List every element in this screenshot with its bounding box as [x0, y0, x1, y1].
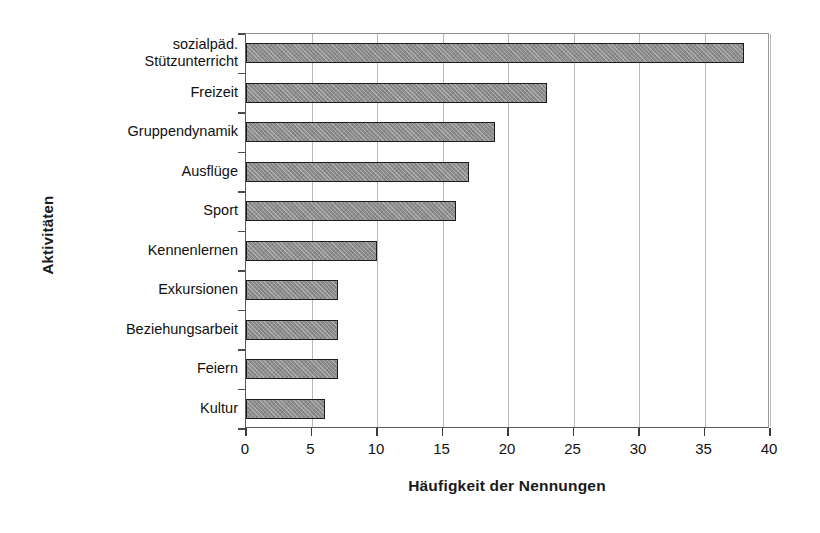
bar-chart-figure: Aktivitäten sozialpäd. StützunterrichtFr… [0, 0, 820, 533]
bar[interactable] [246, 280, 338, 300]
bar[interactable] [246, 359, 338, 379]
bar[interactable] [246, 201, 456, 221]
bar-slot [246, 350, 768, 390]
y-axis-title: Aktivitäten [34, 150, 60, 320]
y-axis-tick-mark [238, 73, 245, 75]
bar-slot [246, 311, 768, 351]
bar-slot [246, 390, 768, 430]
bar[interactable] [246, 241, 377, 261]
y-axis-tick-marks [237, 33, 245, 429]
bar[interactable] [246, 399, 325, 419]
y-axis-tick-label: Kultur [60, 400, 238, 417]
bar[interactable] [246, 83, 547, 103]
x-axis-title: Häufigkeit der Nennungen [245, 477, 769, 495]
y-axis-tick-label: Kennenlernen [60, 242, 238, 259]
x-axis-tick-mark [311, 428, 313, 436]
x-axis-tick-label: 20 [485, 440, 529, 457]
x-axis-tick-mark [376, 428, 378, 436]
x-axis-tick-mark [245, 428, 247, 436]
y-axis-tick-label: Beziehungsarbeit [60, 321, 238, 338]
bar-slot [246, 34, 768, 74]
bar-slot [246, 271, 768, 311]
x-axis-tick-mark [638, 428, 640, 436]
bar-slot [246, 113, 768, 153]
y-axis-tick-label: Sport [60, 202, 238, 219]
y-axis-tick-label: sozialpäd. Stützunterricht [60, 36, 238, 70]
y-axis-tick-mark [238, 389, 245, 391]
y-axis-tick-labels: sozialpäd. StützunterrichtFreizeitGruppe… [60, 33, 238, 428]
x-axis-tick-mark [507, 428, 509, 436]
y-axis-tick-mark [238, 33, 245, 35]
x-axis-tick-label: 30 [616, 440, 660, 457]
y-axis-tick-mark [238, 152, 245, 154]
x-axis-tick-label: 10 [354, 440, 398, 457]
x-axis-tick-mark [573, 428, 575, 436]
x-axis-tick-marks [245, 428, 769, 437]
bar[interactable] [246, 162, 469, 182]
y-axis-tick-label: Feiern [60, 360, 238, 377]
y-axis-tick-mark [238, 428, 245, 430]
x-axis-tick-label: 0 [223, 440, 267, 457]
x-axis-tick-label: 25 [551, 440, 595, 457]
x-axis-tick-mark [769, 428, 771, 436]
y-axis-tick-label: Freizeit [60, 84, 238, 101]
y-axis-tick-label: Gruppendynamik [60, 123, 238, 140]
bar[interactable] [246, 320, 338, 340]
gridline-40 [770, 34, 771, 427]
y-axis-tick-mark [238, 349, 245, 351]
bar-slot [246, 74, 768, 114]
bars-layer [246, 34, 768, 427]
y-axis-tick-mark [238, 310, 245, 312]
y-axis-tick-mark [238, 191, 245, 193]
x-axis-tick-label: 5 [289, 440, 333, 457]
y-axis-tick-label: Ausflüge [60, 163, 238, 180]
bar-slot [246, 192, 768, 232]
y-axis-tick-mark [238, 270, 245, 272]
x-axis-tick-label: 15 [420, 440, 464, 457]
bar[interactable] [246, 43, 744, 63]
x-axis-tick-mark [704, 428, 706, 436]
y-axis-tick-label: Exkursionen [60, 281, 238, 298]
y-axis-tick-mark [238, 112, 245, 114]
x-axis-tick-labels: 0510152025303540 [245, 440, 769, 462]
x-axis-tick-label: 35 [682, 440, 726, 457]
bar[interactable] [246, 122, 495, 142]
x-axis-tick-label: 40 [747, 440, 791, 457]
y-axis-tick-mark [238, 231, 245, 233]
plot-area [245, 33, 769, 428]
bar-slot [246, 153, 768, 193]
bar-slot [246, 232, 768, 272]
x-axis-tick-mark [442, 428, 444, 436]
